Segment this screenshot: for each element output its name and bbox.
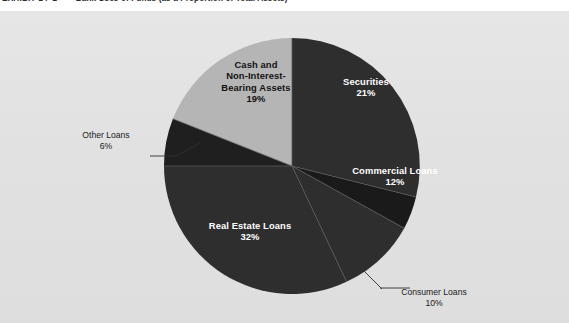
pie-label-consumer-loans-name: Consumer Loans	[386, 287, 482, 298]
chart-panel: Cash and Non-Interest- Bearing Assets 19…	[0, 11, 569, 323]
pie-label-commercial-loans: Commercial Loans 12%	[340, 165, 450, 188]
pie-label-real-estate-loans-name: Real Estate Loans	[186, 220, 314, 231]
exhibit-caption: EXHIBIT 14–2 Bank Uses of Funds (as a Pr…	[0, 0, 569, 10]
exhibit-pie-chart-screenshot: EXHIBIT 14–2 Bank Uses of Funds (as a Pr…	[0, 0, 569, 323]
pie-value-other-loans: 6%	[64, 141, 148, 152]
pie-label-other-loans: Other Loans 6%	[64, 130, 148, 151]
exhibit-number: EXHIBIT 14–2	[2, 0, 57, 3]
pie-value-cash: 19%	[196, 93, 316, 104]
pie-label-securities: Securities 21%	[318, 76, 414, 99]
pie-label-real-estate-loans: Real Estate Loans 32%	[186, 220, 314, 243]
pie-value-real-estate-loans: 32%	[186, 231, 314, 242]
pie-label-cash-line1: Cash and	[196, 59, 316, 70]
pie-label-consumer-loans: Consumer Loans 10%	[386, 287, 482, 308]
pie-value-securities: 21%	[318, 87, 414, 98]
pie-value-commercial-loans: 12%	[340, 176, 450, 187]
pie-chart-graphic	[0, 11, 569, 323]
pie-label-other-loans-name: Other Loans	[64, 130, 148, 141]
pie-label-securities-name: Securities	[318, 76, 414, 87]
pie-label-cash-line2: Non-Interest-	[196, 70, 316, 81]
pie-label-commercial-loans-name: Commercial Loans	[340, 165, 450, 176]
exhibit-title: Bank Uses of Funds (as a Proportion of T…	[76, 0, 288, 3]
pie-value-consumer-loans: 10%	[386, 298, 482, 309]
pie-label-cash-line3: Bearing Assets	[196, 82, 316, 93]
pie-label-cash-and-non-interest-bearing-assets: Cash and Non-Interest- Bearing Assets 19…	[196, 59, 316, 105]
